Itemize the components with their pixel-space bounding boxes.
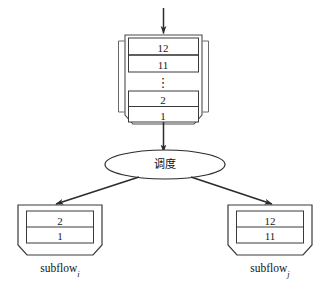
subflow-j-cell-12: 12 — [236, 216, 304, 227]
subflow-j-label: subflowj — [220, 263, 320, 277]
scheduler-to-subflow-j-arrow — [191, 177, 272, 204]
main-queue-cell-11: 11 — [128, 60, 198, 71]
subflow-i-label: subflowi — [10, 263, 110, 277]
subflow-i-label-subscript: i — [77, 269, 79, 279]
subflow-i-cell-2: 2 — [26, 216, 94, 227]
scheduler-to-subflow-i-arrow — [56, 177, 139, 204]
subflow-j-cell-11: 11 — [236, 231, 304, 242]
subflow-i-cell-1: 1 — [26, 231, 94, 242]
subflow-i-label-text: subflow — [40, 262, 77, 274]
scheduler-label: 调度 — [105, 159, 225, 170]
subflow-j-label-subscript: j — [287, 269, 289, 279]
main-queue-cell-1: 1 — [128, 111, 198, 122]
main-queue-ellipsis: ⋮ — [128, 76, 198, 89]
main-queue-cell-2: 2 — [128, 95, 198, 106]
scheduling-flow-diagram: 12 11 ⋮ 2 1 调度 2 1 12 11 subflowi subflo… — [0, 0, 327, 296]
main-queue-cell-12: 12 — [128, 43, 198, 54]
subflow-j-label-text: subflow — [250, 262, 287, 274]
